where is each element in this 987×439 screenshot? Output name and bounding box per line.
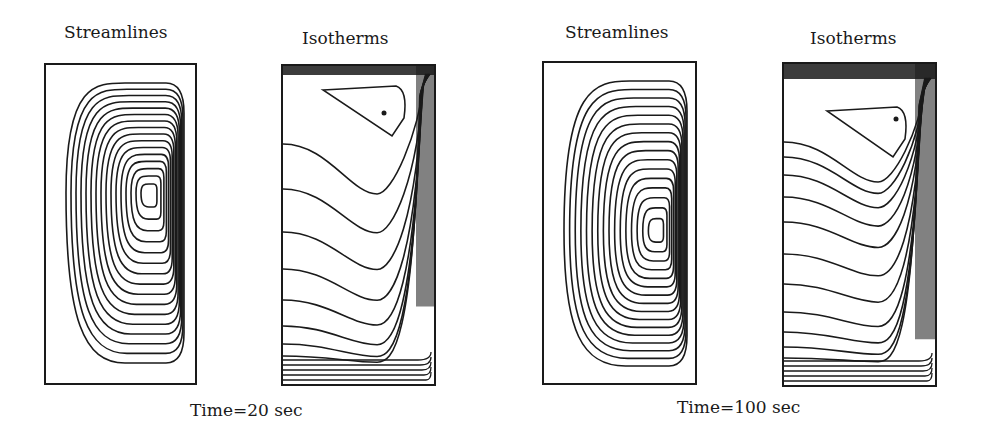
panel-title-streamlines-t20: Streamlines — [64, 22, 168, 42]
streamlines-plot-t100 — [542, 61, 697, 385]
isotherms-plot-t100 — [782, 62, 937, 387]
isotherms-plot-t20 — [281, 64, 436, 386]
caption-time-100: Time=100 sec — [677, 397, 800, 417]
panel-title-isotherms-t100: Isotherms — [810, 28, 897, 48]
streamlines-plot-t20 — [44, 63, 197, 385]
caption-time-20: Time=20 sec — [190, 400, 303, 420]
panel-title-isotherms-t20: Isotherms — [302, 28, 389, 48]
panel-title-streamlines-t100: Streamlines — [565, 22, 669, 42]
